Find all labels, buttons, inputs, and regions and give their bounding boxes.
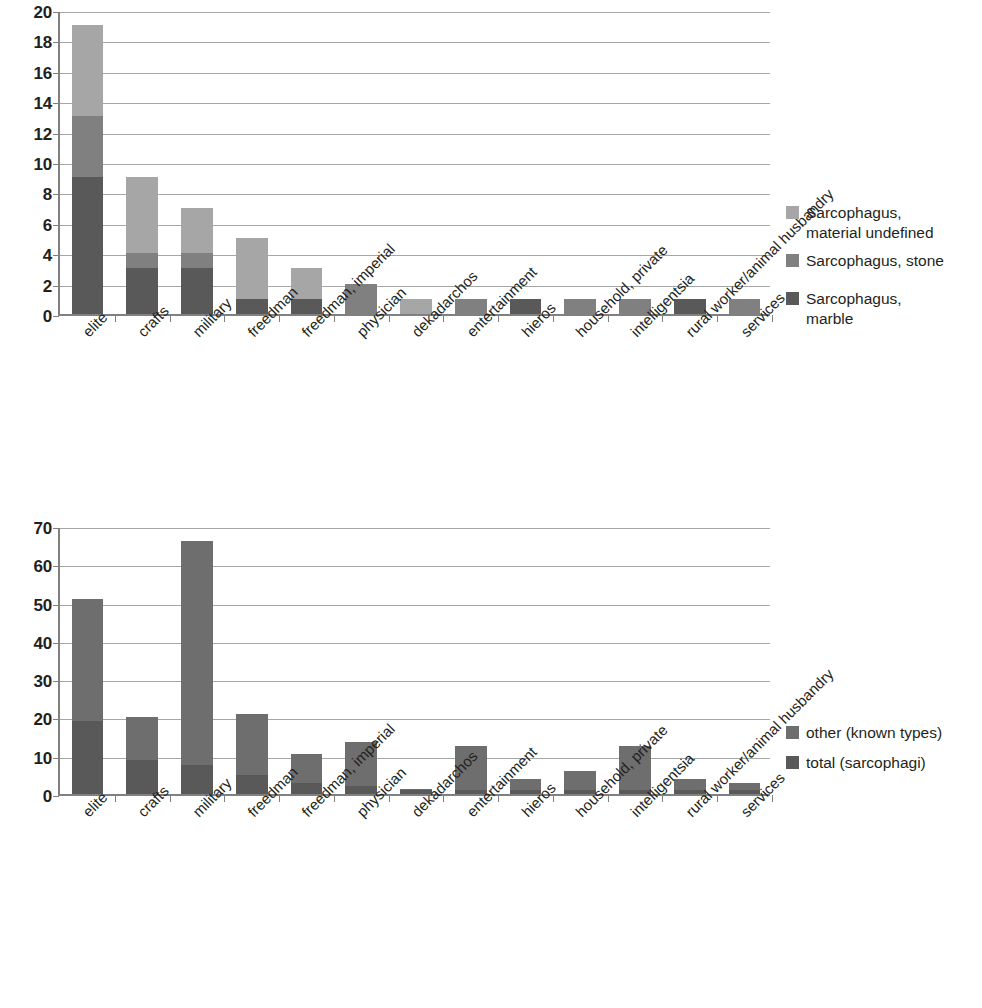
y-axis-tick-label: 14: [33, 95, 52, 112]
y-axis-tick-label: 40: [33, 634, 52, 651]
y-axis-tick-mark: [53, 681, 59, 682]
legend-swatch-icon: [786, 726, 799, 739]
y-axis-tick-label: 16: [33, 64, 52, 81]
bar-segment: [181, 541, 213, 765]
y-axis-tick-mark: [53, 719, 59, 720]
y-axis-tick-label: 50: [33, 596, 52, 613]
bar-freedman: [236, 12, 268, 314]
bar-military: [181, 528, 213, 794]
bar-household-private: [564, 12, 596, 314]
legend-swatch-icon: [786, 254, 799, 267]
y-axis-tick-mark: [53, 42, 59, 43]
y-axis-tick-mark: [53, 643, 59, 644]
legend-label: Sarcophagus, stone: [806, 251, 944, 271]
legend-swatch-icon: [786, 206, 799, 219]
y-axis-tick-mark: [53, 73, 59, 74]
chart-sarcophagus-types: 02468101214161820 elitecraftsmilitaryfre…: [0, 0, 982, 470]
bar-segment: [72, 25, 104, 116]
y-axis-tick-label: 8: [43, 186, 52, 203]
y-axis-tick-label: 6: [43, 216, 52, 233]
y-axis-tick-label: 70: [33, 520, 52, 537]
x-axis-tick-mark: [115, 315, 116, 322]
bar-segment: [126, 253, 158, 268]
y-axis-tick-label: 12: [33, 125, 52, 142]
bar-segment: [126, 177, 158, 253]
legend-swatch-icon: [786, 756, 799, 769]
bar-segment: [72, 721, 104, 794]
y-axis-tick-mark: [53, 566, 59, 567]
legend-item: total (sarcophagi): [786, 753, 926, 773]
y-axis-tick-mark: [53, 796, 59, 797]
legend-item: other (known types): [786, 723, 942, 743]
legend-label: Sarcophagus, material undefined: [806, 203, 934, 242]
y-axis-tick-label: 30: [33, 673, 52, 690]
y-axis-tick-label: 4: [43, 247, 52, 264]
legend-label: total (sarcophagi): [806, 753, 926, 773]
y-axis-tick-label: 0: [43, 788, 52, 805]
y-axis-tick-label: 0: [43, 308, 52, 325]
page-bottom-artifact: [0, 995, 982, 1008]
bar-elite: [72, 12, 104, 314]
bar-freedman: [236, 528, 268, 794]
legend-item: Sarcophagus, marble: [786, 289, 902, 328]
y-axis-tick-label: 10: [33, 749, 52, 766]
y-axis-tick-mark: [53, 134, 59, 135]
bar-freedman-imperial: [291, 528, 323, 794]
chart2-plot-area: [58, 528, 770, 796]
bar-segment: [236, 714, 268, 775]
legend-item: Sarcophagus, stone: [786, 251, 944, 271]
y-axis-tick-mark: [53, 194, 59, 195]
bar-segment: [236, 238, 268, 299]
figure-page: 02468101214161820 elitecraftsmilitaryfre…: [0, 0, 982, 1008]
y-axis-tick-label: 2: [43, 277, 52, 294]
legend-label: Sarcophagus, marble: [806, 289, 902, 328]
bar-segment: [72, 116, 104, 177]
bar-military: [181, 12, 213, 314]
y-axis-tick-label: 10: [33, 156, 52, 173]
y-axis-tick-mark: [53, 286, 59, 287]
y-axis-tick-mark: [53, 316, 59, 317]
y-axis-tick-label: 20: [33, 711, 52, 728]
legend-swatch-icon: [786, 292, 799, 305]
y-axis-tick-mark: [53, 758, 59, 759]
y-axis-tick-label: 20: [33, 4, 52, 21]
bar-segment: [72, 599, 104, 722]
y-axis-tick-mark: [53, 255, 59, 256]
bar-rural-worker-animal-husbandry: [674, 12, 706, 314]
y-axis-tick-mark: [53, 605, 59, 606]
bar-dekadarchos: [400, 12, 432, 314]
bar-segment: [181, 208, 213, 254]
legend-item: Sarcophagus, material undefined: [786, 203, 934, 242]
y-axis-tick-mark: [53, 103, 59, 104]
y-axis-tick-mark: [53, 164, 59, 165]
y-axis-tick-mark: [53, 225, 59, 226]
bar-crafts: [126, 528, 158, 794]
y-axis-tick-label: 60: [33, 558, 52, 575]
chart-sarcophagi-vs-other: 010203040506070 elitecraftsmilitaryfreed…: [0, 505, 982, 975]
bar-elite: [72, 528, 104, 794]
chart1-plot-area: [58, 12, 770, 316]
bar-segment: [72, 177, 104, 314]
chart2-y-axis: 010203040506070: [10, 528, 52, 796]
y-axis-tick-label: 18: [33, 34, 52, 51]
bar-dekadarchos: [400, 528, 432, 794]
x-axis-tick-mark: [115, 795, 116, 802]
bar-freedman-imperial: [291, 12, 323, 314]
bar-segment: [126, 717, 158, 759]
chart1-y-axis: 02468101214161820: [10, 12, 52, 316]
bar-crafts: [126, 12, 158, 314]
y-axis-tick-mark: [53, 528, 59, 529]
y-axis-tick-mark: [53, 12, 59, 13]
bar-segment: [181, 253, 213, 268]
bar-household-private: [564, 528, 596, 794]
legend-label: other (known types): [806, 723, 942, 743]
